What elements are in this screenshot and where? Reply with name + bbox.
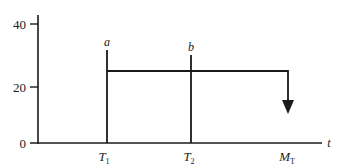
- x-label-T1: T1: [98, 149, 109, 166]
- horizontal-path: [107, 71, 288, 102]
- x-label-MT: MT: [278, 149, 295, 166]
- diagram: 40 20 0 a b T1 T2 MT t: [0, 0, 342, 168]
- label-a: a: [104, 35, 110, 49]
- x-axis-label: t: [327, 136, 331, 150]
- arrow-down-icon: [282, 100, 294, 114]
- y-tick-label-20: 20: [13, 80, 26, 95]
- y-tick-label-40: 40: [13, 17, 26, 32]
- x-label-T2: T2: [183, 149, 194, 166]
- label-b: b: [188, 40, 194, 54]
- y-tick-label-0: 0: [20, 136, 27, 151]
